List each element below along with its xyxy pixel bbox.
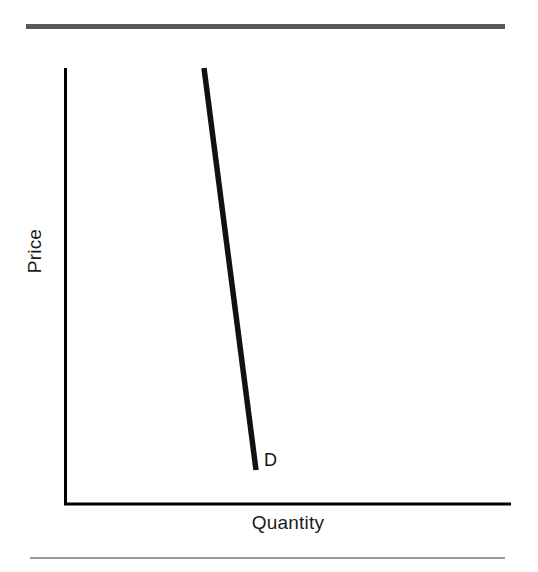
chart-plot-area: Price Quantity D (0, 0, 538, 572)
demand-curve-line (204, 68, 256, 470)
bottom-divider-rule (30, 557, 505, 559)
x-axis-label: Quantity (188, 512, 388, 534)
chart-svg (0, 0, 538, 572)
demand-curve-label: D (264, 450, 277, 471)
figure-canvas: Price Quantity D (0, 0, 538, 572)
y-axis-label: Price (24, 216, 46, 286)
